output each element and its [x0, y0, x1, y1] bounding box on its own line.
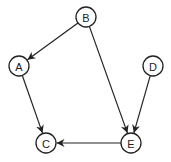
- node-label: C: [42, 138, 50, 150]
- nodes-layer: ABCDE: [9, 7, 163, 153]
- node-label: D: [149, 61, 157, 73]
- edge-d-to-e: [134, 76, 150, 133]
- edges-layer: [22, 23, 150, 143]
- edge-b-to-e: [89, 26, 127, 133]
- edge-b-to-a: [27, 23, 77, 60]
- node-label: B: [82, 12, 89, 24]
- node-e: E: [121, 133, 141, 153]
- node-c: C: [36, 133, 56, 153]
- node-label: E: [127, 138, 134, 150]
- node-b: B: [76, 7, 96, 27]
- edge-a-to-c: [22, 75, 42, 133]
- node-a: A: [9, 56, 29, 76]
- directed-graph-diagram: ABCDE: [0, 0, 171, 162]
- node-label: A: [15, 61, 23, 73]
- node-d: D: [143, 56, 163, 76]
